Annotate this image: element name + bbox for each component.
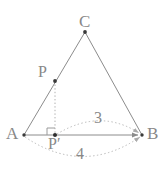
vertex-dot-B: [140, 133, 143, 136]
label-point-P: P: [38, 64, 47, 80]
segment-AC: [24, 32, 85, 135]
label-measure-4: 4: [76, 146, 84, 162]
label-point-C: C: [79, 13, 90, 30]
label-measure-3: 3: [94, 110, 102, 126]
label-point-A: A: [6, 125, 18, 142]
geometry-figure: C P A B P′ 3 4: [0, 0, 166, 169]
label-point-P-prime: P′: [48, 136, 60, 152]
label-point-B: B: [147, 125, 158, 142]
vertex-dot-P: [53, 79, 57, 83]
vertex-dot-A: [22, 133, 25, 136]
